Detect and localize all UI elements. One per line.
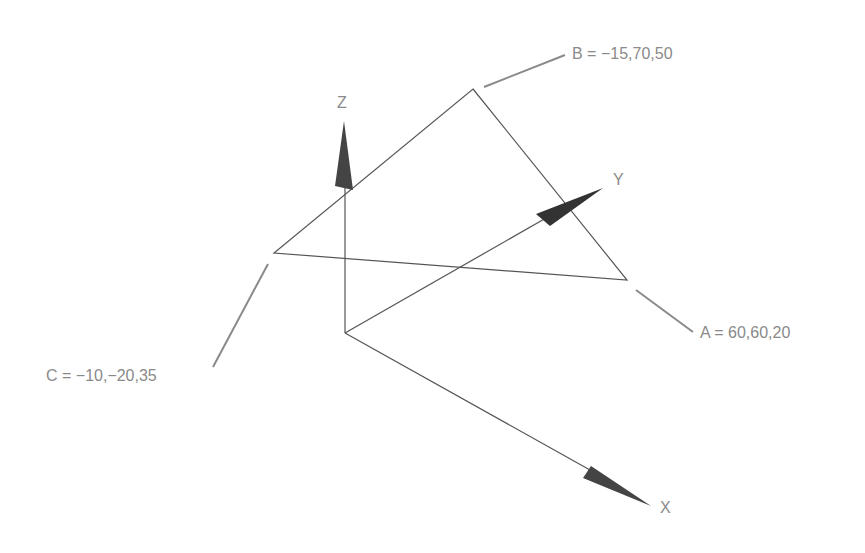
y-axis-label: Y: [613, 172, 624, 188]
point-c-label: C = −10,−20,35: [46, 368, 157, 384]
point-a-label: A = 60,60,20: [700, 325, 790, 341]
y-axis-arrow-icon: [536, 188, 603, 226]
diagram-svg: [0, 0, 865, 553]
diagram-canvas: Z Y X B = −15,70,50 A = 60,60,20 C = −10…: [0, 0, 865, 553]
x-axis-line: [345, 333, 590, 470]
leader-b: [484, 55, 565, 87]
leader-a: [636, 290, 693, 332]
x-axis-label: X: [660, 500, 671, 516]
y-axis-line: [345, 210, 560, 333]
z-axis-label: Z: [337, 95, 347, 111]
z-axis-arrow-icon: [335, 121, 353, 190]
leader-c: [213, 264, 268, 367]
point-b-label: B = −15,70,50: [572, 46, 673, 62]
triangle-abc: [274, 89, 627, 280]
x-axis-arrow-icon: [583, 466, 651, 506]
